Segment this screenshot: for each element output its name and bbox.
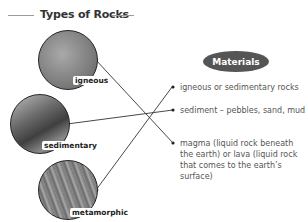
material-item-magma-lava: magma (liquid rock beneath the earth) or… [180,138,306,182]
material-item-sediment: sediment – pebbles, sand, mud [180,105,308,116]
material-item-igneous-sedimentary: igneous or sedimentary rocks [180,82,308,93]
rock-label-metamorphic: metamorphic [70,208,130,217]
rock-label-sedimentary: sedimentary [42,141,99,150]
rock-label-igneous: igneous [73,76,110,85]
materials-heading: Materials [203,51,269,72]
materials-heading-text: Materials [212,57,259,67]
